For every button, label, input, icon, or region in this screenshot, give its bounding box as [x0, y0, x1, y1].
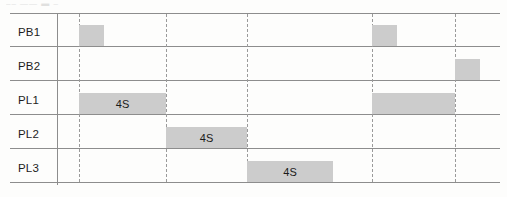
duration-arrow-pl3: 4S	[250, 167, 330, 178]
duration-label-pl1-wrap: 4S	[82, 97, 163, 111]
duration-label-pl1: 4S	[112, 98, 133, 110]
duration-label-pl3-wrap: 4S	[250, 165, 330, 179]
time-tick-t4	[455, 14, 456, 182]
time-tick-t2	[247, 14, 248, 182]
signal-block-pb2-1	[455, 59, 480, 80]
grid-line-top	[10, 13, 500, 14]
time-tick-t1	[166, 14, 167, 182]
duration-label-pl2: 4S	[196, 132, 217, 144]
signal-block-pl1-2	[372, 93, 455, 114]
grid-line-pl2	[10, 148, 500, 149]
grid-line-pl1	[10, 114, 500, 115]
scan-edge-artifact: –– —— ▬ –	[6, 0, 106, 8]
duration-arrow-pl1: 4S	[82, 99, 163, 110]
row-label-pb1: PB1	[18, 17, 58, 47]
signal-block-pb1-2	[372, 25, 397, 46]
row-label-pb2: PB2	[18, 51, 58, 81]
row-label-pl2: PL2	[18, 119, 58, 149]
duration-label-pl2-wrap: 4S	[169, 131, 244, 145]
signal-block-pb1-1	[79, 25, 104, 46]
duration-label-pl3: 4S	[279, 166, 300, 178]
grid-line-pb1	[10, 46, 500, 47]
grid-line-pl3	[10, 182, 500, 183]
row-label-pl1: PL1	[18, 85, 58, 115]
row-label-pl3: PL3	[18, 153, 58, 183]
scanned-page: –– —— ▬ – PB1 PB2 PL1 PL2 PL3	[0, 0, 507, 197]
timing-diagram: PB1 PB2 PL1 PL2 PL3 4S 4S	[10, 13, 500, 185]
duration-arrow-pl2: 4S	[169, 133, 244, 144]
grid-line-pb2	[10, 80, 500, 81]
